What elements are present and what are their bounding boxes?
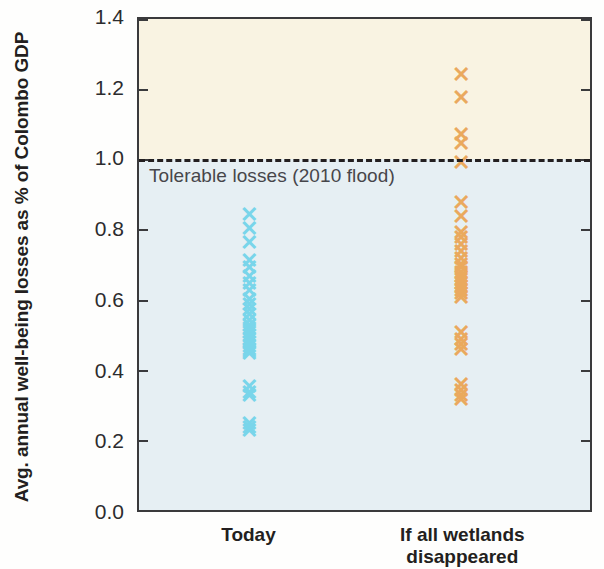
y-axis-tick-left [139, 300, 148, 302]
y-axis-tick-label: 1.2 [95, 76, 124, 100]
band-below-tolerable [139, 159, 590, 510]
data-point-marker: ✕ [452, 339, 470, 361]
y-axis-tick-left [139, 19, 148, 21]
plot-area: ✕✕✕✕✕✕✕✕✕✕✕✕✕✕✕✕✕✕✕✕✕✕✕✕✕✕✕✕✕✕✕✕✕✕✕✕✕✕✕✕… [137, 17, 592, 512]
y-axis-tick-label: 0.4 [95, 359, 124, 383]
y-axis-tick-label: 0.2 [95, 429, 124, 453]
tolerable-losses-threshold-line [139, 159, 590, 162]
data-point-marker: ✕ [452, 64, 470, 86]
data-point-marker: ✕ [452, 389, 470, 411]
y-axis-tick-left [139, 229, 148, 231]
y-axis-tick-right [581, 229, 590, 231]
data-point-marker: ✕ [452, 152, 470, 174]
y-axis-tick-right [581, 89, 590, 91]
data-point-marker: ✕ [240, 343, 258, 365]
y-axis-tick-label: 1.0 [95, 146, 124, 170]
y-axis-tick-right [581, 370, 590, 372]
y-axis-tick-left [139, 89, 148, 91]
tolerable-losses-label: Tolerable losses (2010 flood) [149, 165, 395, 187]
y-axis-tick-left [139, 510, 148, 512]
data-point-marker: ✕ [240, 385, 258, 407]
y-axis-tick-right [581, 440, 590, 442]
y-axis-tick-left [139, 370, 148, 372]
chart-figure: Avg. annual well-being losses as % of Co… [0, 0, 604, 569]
y-axis-tick-label: 1.4 [95, 5, 124, 29]
data-point-marker: ✕ [452, 287, 470, 309]
y-axis-tick-label: 0.6 [95, 288, 124, 312]
y-axis-tick-right [581, 510, 590, 512]
x-axis-category-label: If all wetlands disappeared [400, 524, 525, 567]
y-axis-tick-label: 0.0 [95, 500, 124, 524]
y-axis-tick-right [581, 19, 590, 21]
y-axis-title: Avg. annual well-being losses as % of Co… [11, 12, 33, 522]
y-axis-tick-right [581, 300, 590, 302]
y-axis-tick-label: 0.8 [95, 217, 124, 241]
data-point-marker: ✕ [452, 87, 470, 109]
data-point-marker: ✕ [240, 420, 258, 442]
x-axis-category-label: Today [221, 524, 276, 546]
y-axis-tick-left [139, 440, 148, 442]
band-above-tolerable [139, 19, 590, 159]
